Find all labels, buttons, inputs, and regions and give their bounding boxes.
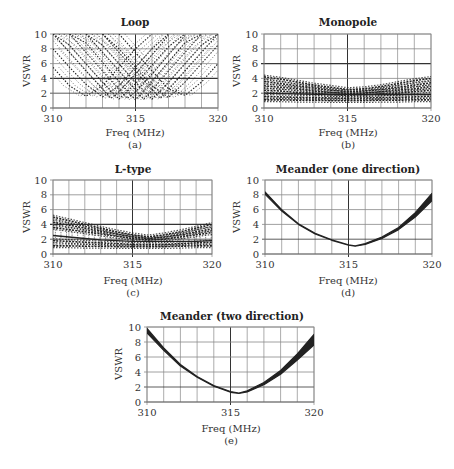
- x-tick-label: 320: [421, 113, 440, 124]
- panel-d: Meander (one direction) 0246810310315320…: [231, 163, 442, 298]
- chart-title: Meander (two direction): [160, 310, 304, 322]
- y-axis-label: VSWR: [113, 348, 124, 381]
- y-tick-label: 4: [253, 219, 259, 230]
- chart-title: L-type: [115, 163, 152, 175]
- y-tick-label: 0: [135, 397, 141, 408]
- x-axis-label: Freq (MHz): [318, 127, 377, 138]
- y-tick-label: 8: [252, 43, 258, 54]
- x-tick-label: 320: [202, 259, 221, 270]
- chart-title: Loop: [121, 16, 150, 28]
- panel-b: Monopole 0246810310315320 VSWR Freq (MHz…: [231, 16, 441, 150]
- y-tick-label: 4: [41, 73, 47, 84]
- vswr-curve: [264, 100, 431, 101]
- y-tick-label: 0: [252, 103, 258, 114]
- y-tick-label: 2: [252, 88, 258, 99]
- x-tick-label: 320: [422, 259, 441, 270]
- y-tick-label: 6: [135, 352, 141, 363]
- vswr-curve: [113, 34, 212, 95]
- y-tick-label: 2: [41, 234, 47, 245]
- y-tick-label: 8: [253, 189, 259, 200]
- x-tick-label: 310: [255, 259, 274, 270]
- y-tick-label: 0: [41, 103, 47, 114]
- x-tick-label: 315: [339, 259, 358, 270]
- y-tick-label: 4: [41, 219, 47, 230]
- x-tick-label: 315: [221, 407, 240, 418]
- panel-caption: (e): [224, 435, 238, 446]
- x-tick-label: 310: [137, 407, 156, 418]
- y-tick-label: 8: [41, 43, 47, 54]
- y-tick-label: 4: [135, 367, 141, 378]
- panel-caption: (c): [126, 287, 140, 298]
- chart-title: Meander (one direction): [276, 163, 420, 175]
- plot-area: 0246810310315320: [34, 175, 221, 271]
- y-tick-label: 6: [41, 58, 47, 69]
- plot-area: 0246810310315320: [245, 29, 440, 125]
- figure-canvas: Loop 0246810310315320 VSWR Freq (MHz) (a…: [0, 0, 454, 469]
- y-axis-label: VSWR: [21, 55, 32, 88]
- panel-e: Meander (two direction) 0246810310315320…: [113, 310, 324, 446]
- x-tick-label: 315: [123, 259, 142, 270]
- y-axis-label: VSWR: [231, 201, 242, 234]
- x-tick-label: 320: [208, 113, 227, 124]
- y-tick-label: 8: [41, 189, 47, 200]
- x-axis-label: Freq (MHz): [105, 127, 164, 138]
- plot-area: 0246810310315320: [128, 322, 323, 419]
- x-tick-label: 315: [338, 113, 357, 124]
- y-tick-label: 10: [34, 29, 47, 40]
- panel-caption: (d): [341, 287, 355, 298]
- y-axis-label: VSWR: [21, 201, 32, 234]
- y-tick-label: 4: [252, 73, 258, 84]
- y-tick-label: 6: [253, 204, 259, 215]
- plot-area: 0246810310315320: [246, 175, 441, 271]
- y-tick-label: 2: [135, 382, 141, 393]
- y-tick-label: 0: [41, 249, 47, 260]
- x-tick-label: 310: [254, 113, 273, 124]
- y-tick-label: 6: [252, 58, 258, 69]
- y-tick-label: 2: [253, 234, 259, 245]
- y-tick-label: 10: [128, 322, 141, 333]
- panel-caption: (b): [341, 139, 355, 150]
- x-axis-label: Freq (MHz): [201, 423, 260, 434]
- y-tick-label: 8: [135, 337, 141, 348]
- panel-c: L-type 0246810310315320 VSWR Freq (MHz) …: [21, 163, 222, 298]
- x-axis-label: Freq (MHz): [103, 275, 162, 286]
- y-tick-label: 10: [245, 29, 258, 40]
- y-tick-label: 6: [41, 204, 47, 215]
- panel-a: Loop 0246810310315320 VSWR Freq (MHz) (a…: [21, 16, 228, 150]
- plot-area: 0246810310315320: [34, 29, 227, 125]
- x-tick-label: 310: [43, 259, 62, 270]
- y-tick-label: 10: [34, 175, 47, 186]
- y-tick-label: 0: [253, 249, 259, 260]
- y-tick-label: 10: [246, 175, 259, 186]
- x-tick-label: 320: [304, 407, 323, 418]
- y-axis-label: VSWR: [231, 55, 242, 88]
- x-axis-label: Freq (MHz): [318, 275, 377, 286]
- vswr-curve: [103, 34, 219, 98]
- y-tick-label: 2: [41, 88, 47, 99]
- x-tick-label: 315: [126, 113, 145, 124]
- x-tick-label: 310: [43, 113, 62, 124]
- panel-caption: (a): [128, 139, 142, 150]
- chart-title: Monopole: [319, 16, 378, 28]
